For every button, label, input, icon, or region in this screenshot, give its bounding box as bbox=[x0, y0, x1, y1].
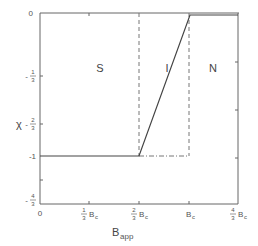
ytick-minus1-3-minus: - bbox=[25, 72, 28, 81]
region-label-i: I bbox=[165, 62, 168, 74]
xtick-4-3-sub: c bbox=[244, 214, 247, 220]
ytick-2-3-den: 3 bbox=[31, 125, 35, 131]
x-axis-label: B bbox=[112, 226, 119, 238]
ytick-1-3-den: 3 bbox=[31, 77, 35, 83]
xtick-1-3-sub: c bbox=[95, 214, 98, 220]
chart: 0 - 1 3 - 2 3 -1 - 4 3 χ 0 1 3 B c 2 3 B… bbox=[0, 0, 258, 246]
ytick-minus4-3-minus: - bbox=[25, 196, 28, 205]
region-label-s: S bbox=[96, 62, 103, 74]
xtick-2-3-den: 3 bbox=[132, 215, 136, 221]
region-label-n: N bbox=[209, 62, 217, 74]
ytick-0: 0 bbox=[29, 9, 34, 18]
xtick-bc-b: B bbox=[186, 210, 191, 219]
ytick-minus1: -1 bbox=[29, 152, 37, 161]
xtick-bc-sub: c bbox=[192, 214, 195, 220]
xtick-4-3-num: 4 bbox=[231, 207, 235, 213]
xtick-2-3-sub: c bbox=[145, 214, 148, 220]
xtick-2-3-b: B bbox=[139, 210, 144, 219]
ytick-4-3-den: 3 bbox=[31, 201, 35, 207]
x-axis-label-sub: app bbox=[120, 232, 134, 241]
ytick-1-3-num: 1 bbox=[31, 69, 35, 75]
ytick-2-3-num: 2 bbox=[31, 117, 35, 123]
xtick-1-3-num: 1 bbox=[82, 207, 86, 213]
xtick-1-3-b: B bbox=[89, 210, 94, 219]
ytick-minus2-3-minus: - bbox=[25, 120, 28, 129]
ytick-4-3-num: 4 bbox=[31, 193, 35, 199]
xtick-4-3-b: B bbox=[238, 210, 243, 219]
xtick-4-3-den: 3 bbox=[231, 215, 235, 221]
y-axis-label: χ bbox=[16, 118, 22, 130]
xtick-2-3-num: 2 bbox=[132, 207, 136, 213]
xtick-0: 0 bbox=[38, 209, 43, 218]
xtick-1-3-den: 3 bbox=[82, 215, 86, 221]
